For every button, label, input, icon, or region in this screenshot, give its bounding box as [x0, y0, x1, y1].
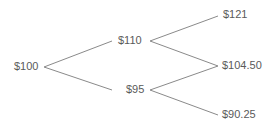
node-up: $110	[118, 35, 142, 46]
node-down-down: $90.25	[222, 109, 256, 120]
edge-root-down	[44, 67, 112, 90]
node-root: $100	[14, 61, 38, 72]
node-up-down: $104.50	[222, 60, 262, 71]
edge-up-upup	[150, 16, 218, 41]
node-up-up: $121	[223, 9, 247, 20]
node-down: $95	[126, 84, 144, 95]
edge-root-up	[44, 41, 112, 67]
edge-up-updown	[150, 41, 218, 66]
edge-down-updown	[150, 66, 218, 90]
edge-down-downdown	[150, 90, 218, 115]
